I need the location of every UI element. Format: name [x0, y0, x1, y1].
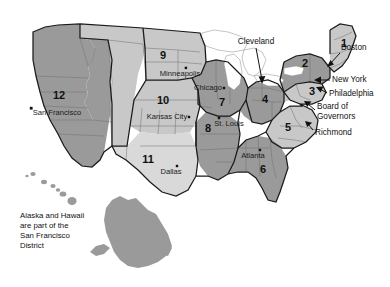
city-label-kansas-city: Kansas City — [147, 112, 188, 121]
district-number-8: 8 — [205, 122, 211, 134]
callout-label-board-of: Board of — [317, 102, 349, 111]
district-number-10: 10 — [157, 94, 169, 106]
alaska-region[interactable] — [104, 196, 172, 268]
alaska-hawaii-caption: Alaska and Hawaii are part of the San Fr… — [20, 211, 84, 250]
callout-label-governors: Governors — [317, 112, 355, 121]
city-label-san-francisco: San Francisco — [33, 108, 82, 117]
caption-line-2: are part of the — [20, 221, 69, 230]
lake-huron-erie — [242, 48, 266, 76]
callout-label-boston: Boston — [341, 43, 367, 52]
district-number-3: 3 — [309, 85, 315, 97]
alaska-aleutians — [90, 244, 110, 256]
city-label-chicago: Chicago — [194, 83, 222, 92]
district-number-6: 6 — [260, 163, 266, 175]
district-number-9: 9 — [160, 49, 166, 61]
district-number-7: 7 — [219, 96, 225, 108]
district-number-2: 2 — [302, 57, 308, 69]
us-map-svg: 1 2 3 4 5 6 7 8 9 10 11 12 Minneapolis C… — [0, 0, 390, 287]
caption-line-1: Alaska and Hawaii — [20, 211, 84, 220]
district-number-12: 12 — [53, 89, 65, 101]
federal-reserve-districts-map: 1 2 3 4 5 6 7 8 9 10 11 12 Minneapolis C… — [0, 0, 390, 287]
city-label-atlanta: Atlanta — [241, 151, 265, 160]
district-number-4: 4 — [262, 93, 269, 105]
city-dot-chicago — [223, 87, 225, 89]
callout-label-new-york: New York — [332, 75, 367, 84]
caption-line-4: District — [20, 241, 45, 250]
city-dot-kansas-city — [188, 116, 190, 118]
callout-label-cleveland: Cleveland — [238, 37, 275, 46]
city-label-st-louis: St. Louis — [214, 119, 244, 128]
district-number-5: 5 — [285, 121, 291, 133]
caption-line-3: San Francisco — [20, 231, 70, 240]
city-label-dallas: Dallas — [160, 167, 181, 176]
district-number-11: 11 — [142, 153, 154, 165]
city-label-minneapolis: Minneapolis — [160, 69, 201, 78]
hawaii-region[interactable] — [25, 172, 76, 205]
callout-label-philadelphia: Philadelphia — [329, 89, 374, 98]
callout-label-richmond: Richmond — [315, 128, 352, 137]
